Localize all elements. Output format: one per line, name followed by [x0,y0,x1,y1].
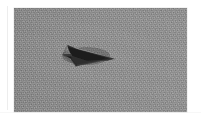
scan-artifact-line-bottom [0,112,201,113]
photo-page [0,0,201,124]
scan-artifact-line-left [7,6,8,110]
photograph-print [14,8,187,112]
sky-background [14,8,187,112]
